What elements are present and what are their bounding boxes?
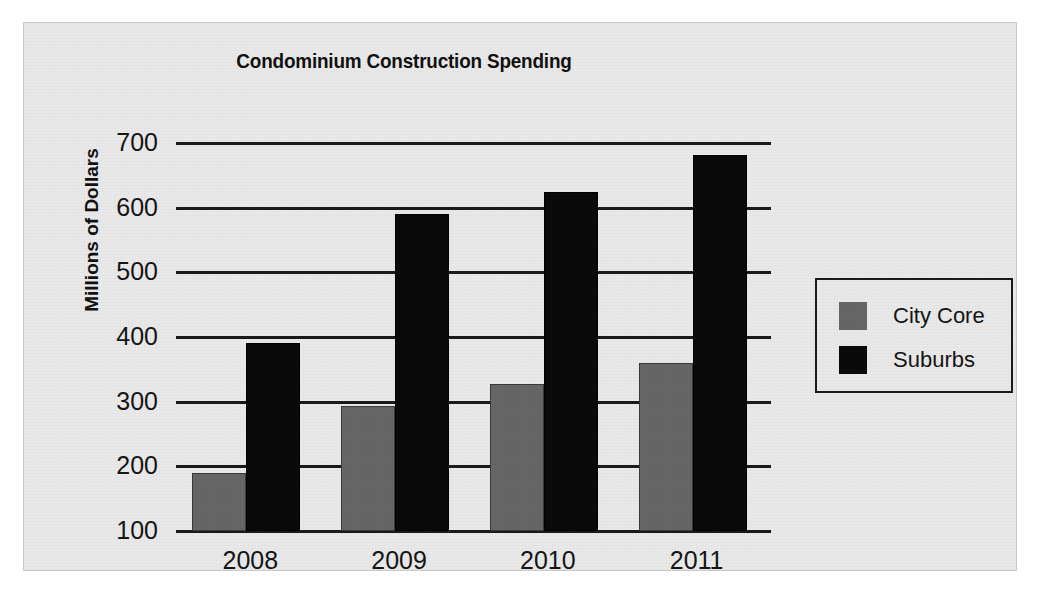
- gridline-600: [176, 207, 771, 210]
- bar-suburbs-2010[interactable]: [544, 192, 598, 532]
- legend-item-city-core[interactable]: City Core: [839, 302, 985, 330]
- y-axis-tick-labels: 100200300400500600700: [96, 143, 158, 531]
- gridline-700: [176, 142, 771, 145]
- y-tick-label-200: 200: [96, 453, 158, 478]
- legend-label-city-core: City Core: [893, 305, 985, 327]
- y-tick-label-700: 700: [96, 130, 158, 155]
- chart-title: Condominium Construction Spending: [62, 49, 746, 73]
- legend-label-suburbs: Suburbs: [893, 349, 975, 371]
- bar-suburbs-2011[interactable]: [693, 155, 747, 531]
- bar-city-core-2010[interactable]: [490, 384, 544, 531]
- chart-legend[interactable]: City Core Suburbs: [815, 278, 1013, 393]
- bar-city-core-2009[interactable]: [341, 406, 395, 531]
- chart-figure: Condominium Construction Spending Millio…: [0, 0, 1042, 592]
- bar-suburbs-2009[interactable]: [395, 214, 449, 531]
- city-core-swatch: [839, 302, 867, 330]
- gridline-400: [176, 336, 771, 339]
- chart-panel: Condominium Construction Spending Millio…: [23, 22, 1017, 571]
- x-axis-tick-labels: 2008200920102011: [176, 548, 771, 588]
- plot-area: [176, 143, 771, 531]
- gridline-500: [176, 271, 771, 274]
- bar-city-core-2008[interactable]: [192, 473, 246, 531]
- y-tick-label-500: 500: [96, 259, 158, 284]
- x-tick-label-2008: 2008: [176, 548, 325, 573]
- y-tick-label-400: 400: [96, 324, 158, 349]
- legend-item-suburbs[interactable]: Suburbs: [839, 346, 975, 374]
- x-tick-label-2011: 2011: [622, 548, 771, 573]
- y-tick-label-100: 100: [96, 518, 158, 543]
- bar-city-core-2011[interactable]: [639, 363, 693, 531]
- y-tick-label-600: 600: [96, 195, 158, 220]
- x-tick-label-2009: 2009: [325, 548, 474, 573]
- y-tick-label-300: 300: [96, 389, 158, 414]
- x-tick-label-2010: 2010: [474, 548, 623, 573]
- suburbs-swatch: [839, 346, 867, 374]
- bar-suburbs-2008[interactable]: [246, 343, 300, 531]
